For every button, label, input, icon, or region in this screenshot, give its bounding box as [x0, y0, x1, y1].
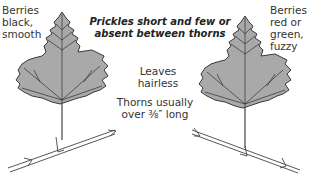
left-berries-label: Berries black, smooth	[2, 4, 41, 40]
right-berries-label: Berries red or green, fuzzy	[270, 4, 307, 52]
label-line: Berries	[2, 4, 41, 16]
thorns-caption: Thorns usually over ⅜″ long	[115, 96, 195, 120]
right-branch-icon	[192, 128, 300, 173]
caption-line: Thorns usually	[115, 96, 195, 108]
leaves-caption: Leaves hairless	[118, 65, 198, 89]
caption-line: Prickles short and few or	[85, 16, 235, 28]
prickles-caption: Prickles short and few or absent between…	[85, 16, 235, 40]
label-line: Berries	[270, 4, 307, 16]
caption-line: over ⅜″ long	[115, 108, 195, 120]
label-line: black,	[2, 16, 41, 28]
label-line: red or	[270, 16, 307, 28]
label-line: green,	[270, 28, 307, 40]
caption-line: absent between thorns	[85, 28, 235, 40]
label-line: smooth	[2, 28, 41, 40]
label-line: fuzzy	[270, 40, 307, 52]
